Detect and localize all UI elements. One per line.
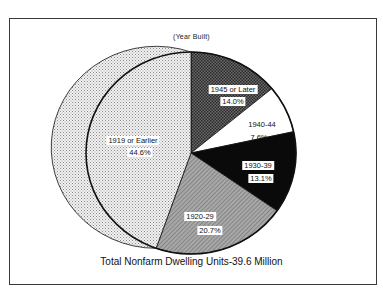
label-1945-name: 1945 or Later (209, 85, 258, 94)
label-1920-29-value: 20.7% (197, 226, 222, 235)
label-1919-name: 1919 or Earlier (106, 136, 159, 145)
pie-chart (0, 0, 383, 291)
label-1940-44-name: 1940-44 (246, 120, 278, 129)
label-1920-29-name: 1920-29 (184, 212, 216, 221)
label-1930-39-name: 1930-39 (242, 161, 274, 170)
label-1940-44-value: 7.6% (248, 133, 269, 142)
chart-caption: Total Nonfarm Dwelling Units-39.6 Millio… (0, 256, 383, 267)
label-1945-value: 14.0% (220, 97, 245, 106)
label-1930-39-value: 13.1% (248, 174, 273, 183)
label-1919-value: 44.6% (127, 148, 152, 157)
